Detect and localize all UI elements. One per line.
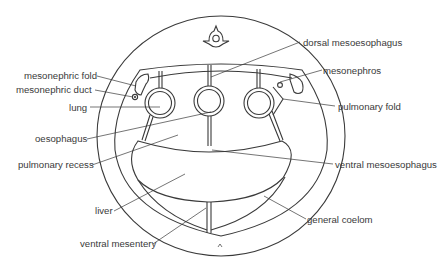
label-mesonephros: mesonephros: [323, 65, 381, 76]
dorsal-mesenteries: [159, 65, 260, 88]
ventral-mesentery-septum: [138, 177, 285, 233]
ventral-mark-icon: [218, 244, 222, 247]
pulmonary-folds: [142, 87, 283, 146]
label-dorsal-mesoesophagus: dorsal mesoesophagus: [303, 37, 402, 48]
label-lung: lung: [69, 102, 87, 113]
label-liver: liver: [95, 205, 113, 216]
label-oesophagus: oesophagus: [35, 133, 87, 144]
label-general-coelom: general coelom: [307, 214, 373, 225]
dorsal-wall: [150, 71, 292, 78]
embryo-section-diagram: mesonephric fold mesonephric duct lung o…: [0, 0, 447, 265]
label-mesonephric-fold: mesonephric fold: [24, 70, 97, 81]
label-mesonephric-duct: mesonephric duct: [16, 84, 92, 95]
oesophagus: [194, 86, 224, 116]
coelomic-cavity: [115, 64, 328, 236]
label-ventral-mesentery: ventral mesentery: [80, 238, 156, 249]
mesonephric-fold-right: [278, 74, 303, 94]
neural-tube-icon: [203, 26, 229, 47]
left-lung: [145, 88, 175, 118]
label-ventral-mesoesophagus: ventral mesoesophagus: [335, 159, 437, 170]
labels: mesonephric fold mesonephric duct lung o…: [16, 37, 437, 249]
liver: [132, 141, 292, 202]
label-pulmonary-recess: pulmonary recess: [18, 159, 94, 170]
label-pulmonary-fold: pulmonary fold: [338, 101, 401, 112]
right-lung: [244, 88, 274, 118]
